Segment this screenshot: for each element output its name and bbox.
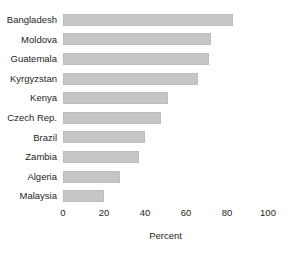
x-axis: 020406080100 [63, 208, 268, 222]
bar [63, 73, 198, 85]
bar [63, 53, 209, 65]
category-label: Malaysia [20, 191, 58, 201]
x-tick-label: 80 [222, 208, 233, 218]
category-label: Guatemala [11, 54, 57, 64]
x-tick-label: 20 [99, 208, 110, 218]
category-label: Zambia [25, 152, 57, 162]
bar-row: Guatemala [63, 49, 268, 69]
category-label: Kyrgyzstan [10, 74, 57, 84]
bar [63, 92, 168, 104]
bar-chart: BangladeshMoldovaGuatemalaKyrgyzstanKeny… [0, 0, 293, 254]
category-label: Brazil [33, 133, 57, 143]
plot-area: BangladeshMoldovaGuatemalaKyrgyzstanKeny… [63, 10, 268, 206]
bar-row: Kenya [63, 88, 268, 108]
x-axis-title: Percent [63, 231, 268, 241]
category-label: Czech Rep. [7, 113, 57, 123]
category-label: Moldova [21, 35, 57, 45]
category-label: Algeria [27, 172, 57, 182]
bar-row: Zambia [63, 147, 268, 167]
bar-row: Moldova [63, 30, 268, 50]
bar-row: Algeria [63, 167, 268, 187]
bar-row: Brazil [63, 128, 268, 148]
bar [63, 171, 120, 183]
bar-row: Kyrgyzstan [63, 69, 268, 89]
bar [63, 190, 104, 202]
bar [63, 14, 233, 26]
x-tick-label: 40 [140, 208, 151, 218]
bar-row: Czech Rep. [63, 108, 268, 128]
x-tick-label: 0 [60, 208, 65, 218]
x-tick-label: 60 [181, 208, 192, 218]
category-label: Kenya [30, 93, 57, 103]
bar [63, 131, 145, 143]
x-tick-label: 100 [260, 208, 276, 218]
category-label: Bangladesh [7, 15, 57, 25]
bar [63, 151, 139, 163]
bar-row: Malaysia [63, 186, 268, 206]
bar [63, 33, 211, 45]
bar [63, 112, 161, 124]
bar-row: Bangladesh [63, 10, 268, 30]
